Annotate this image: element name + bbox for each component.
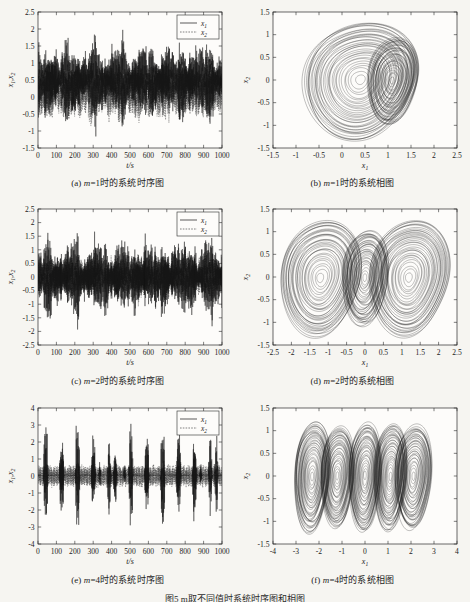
y-tick-label: 1 [266, 30, 270, 39]
x-tick-label: 700 [161, 348, 173, 357]
panel-b-caption: (b) m=1时的系统相图 [235, 176, 470, 189]
y-tick-label: -0.5 [22, 286, 34, 295]
panel-f-caption-text: =4时的系统相图 [329, 575, 393, 585]
x-tick-label: 0 [363, 547, 367, 556]
panel-a-caption: (a) m=1时的系统时序图 [0, 176, 235, 189]
x-tick-label: 100 [51, 348, 63, 357]
x-axis-label: x1 [361, 358, 369, 368]
panel-a: 01002003004005006007008009001000-1.5-1-0… [0, 0, 235, 200]
x-axis-label: t/s [126, 358, 134, 367]
panel-d: -2.5-2-1.5-1-0.500.511.522.5-1.5-1-0.500… [235, 197, 470, 397]
panel-e-caption-text: =4时的系统时序图 [90, 575, 163, 585]
panel-d-caption-text: =2时的系统相图 [330, 376, 394, 386]
x-tick-label: 0 [340, 151, 344, 160]
panel-b-caption-prefix: (b) [310, 178, 321, 188]
y-tick-label: 0.5 [260, 53, 270, 62]
x-tick-label: 800 [180, 348, 192, 357]
y-axis-label: x2 [241, 77, 251, 85]
x-tick-label: 900 [198, 348, 210, 357]
y-tick-label: 0.5 [260, 250, 270, 259]
legend-box [177, 15, 219, 39]
panel-f: -4-3-2-101234-1.5-1-0.500.511.5x1x2 [235, 396, 470, 596]
panel-d-plot: -2.5-2-1.5-1-0.500.511.522.5-1.5-1-0.500… [235, 197, 470, 375]
panel-e: 01002003004005006007008009001000-4-3-2-1… [0, 396, 235, 596]
y-tick-label: 1 [266, 227, 270, 236]
y-tick-label: -1.5 [257, 341, 269, 350]
panel-b-plot: -1.5-1-0.500.511.522.5-1.5-1-0.500.511.5… [235, 0, 470, 178]
y-tick-label: -0.5 [257, 494, 269, 503]
y-tick-label: 1.5 [260, 404, 270, 413]
x-tick-label: 300 [88, 547, 100, 556]
x-tick-label: 300 [88, 348, 100, 357]
x-tick-label: 1 [386, 151, 390, 160]
x-tick-label: 500 [124, 547, 136, 556]
panel-f-caption-prefix: (f) [311, 575, 320, 585]
x-tick-label: 0 [36, 348, 40, 357]
x-tick-label: 0.5 [360, 151, 370, 160]
y-tick-label: -1 [263, 517, 270, 526]
y-tick-label: 2.5 [25, 205, 35, 214]
x-tick-label: -1 [339, 547, 346, 556]
y-tick-label: -1 [263, 121, 270, 130]
x-tick-label: 200 [69, 547, 81, 556]
y-tick-label: -1 [28, 300, 35, 309]
y-axis-label: x1,x2 [6, 72, 16, 88]
x-tick-label: 800 [180, 151, 192, 160]
y-axis-label: x2 [241, 473, 251, 481]
x-tick-label: 200 [69, 348, 81, 357]
x-tick-label: -2 [316, 547, 323, 556]
x-tick-label: -1.5 [304, 348, 316, 357]
x-tick-label: 900 [198, 547, 210, 556]
y-tick-label: -1.5 [22, 314, 34, 323]
x-tick-label: 0 [36, 547, 40, 556]
figure-bottom-caption: 图5 m取不同值时系统时序图和相图 [0, 592, 470, 602]
y-tick-label: 0 [266, 76, 270, 85]
x-tick-label: 300 [88, 151, 100, 160]
y-tick-label: 2.5 [25, 8, 35, 17]
legend-box [177, 212, 219, 236]
y-tick-label: 1 [266, 426, 270, 435]
x-tick-label: 700 [161, 151, 173, 160]
y-tick-label: 1 [31, 455, 35, 464]
x-tick-label: 100 [51, 547, 63, 556]
y-tick-label: 1.5 [260, 205, 270, 214]
y-axis-label: x1,x2 [6, 468, 16, 484]
x-tick-label: 1000 [214, 547, 229, 556]
panel-e-plot: 01002003004005006007008009001000-4-3-2-1… [0, 396, 235, 574]
x-tick-label: 400 [106, 547, 118, 556]
panel-c-caption-prefix: (c) [71, 376, 81, 386]
x-tick-label: -4 [270, 547, 277, 556]
legend-box [177, 411, 219, 435]
y-tick-label: 0.5 [260, 449, 270, 458]
y-tick-label: 2 [31, 218, 35, 227]
panel-a-caption-text: =1时的系统时序图 [90, 178, 163, 188]
y-axis-label: x1,x2 [6, 269, 16, 285]
y-tick-label: 4 [31, 404, 35, 413]
x-tick-label: -3 [293, 547, 300, 556]
x-tick-label: 100 [51, 151, 63, 160]
x-axis-label: t/s [126, 557, 134, 566]
x-tick-label: 1 [400, 348, 404, 357]
x-tick-label: -1 [325, 348, 332, 357]
x-axis-label: x1 [361, 557, 369, 567]
panel-c-plot: 01002003004005006007008009001000-2.5-2-1… [0, 197, 235, 375]
y-tick-label: 0 [31, 93, 35, 102]
x-tick-label: 2.5 [452, 348, 462, 357]
y-tick-label: 0.5 [25, 259, 35, 268]
y-tick-label: 2 [31, 438, 35, 447]
x-axis-label: t/s [126, 161, 134, 170]
y-tick-label: -1.5 [257, 540, 269, 549]
x-tick-label: 900 [198, 151, 210, 160]
x-tick-label: 200 [69, 151, 81, 160]
y-tick-label: -2 [28, 506, 35, 515]
panel-c: 01002003004005006007008009001000-2.5-2-1… [0, 197, 235, 397]
x-tick-label: 700 [161, 547, 173, 556]
panel-b-caption-text: =1时的系统相图 [330, 178, 394, 188]
y-tick-label: 1.5 [260, 8, 270, 17]
x-tick-label: 2 [409, 547, 413, 556]
x-tick-label: 0.5 [379, 348, 389, 357]
figure-container: 01002003004005006007008009001000-1.5-1-0… [0, 0, 470, 602]
y-tick-label: -0.5 [257, 295, 269, 304]
x-tick-label: 600 [143, 151, 155, 160]
x-tick-label: -2 [288, 348, 295, 357]
